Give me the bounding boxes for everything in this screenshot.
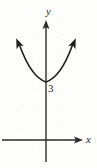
x-axis-label: x	[86, 134, 91, 145]
vertex-value-label: 3	[48, 83, 54, 94]
axes-group	[2, 20, 83, 162]
parabola-figure: y x 3	[0, 0, 97, 168]
y-axis-label: y	[46, 6, 51, 17]
